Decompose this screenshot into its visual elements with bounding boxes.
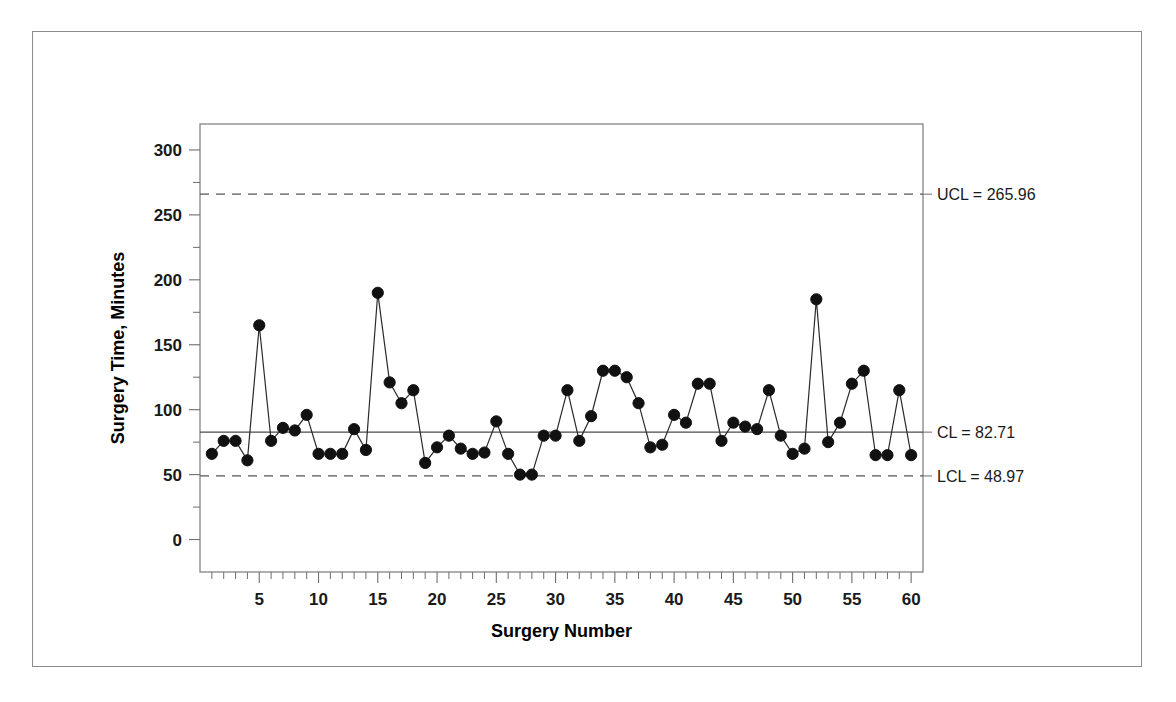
y-tick-label: 300 bbox=[154, 141, 182, 160]
data-point[interactable] bbox=[562, 385, 573, 396]
data-point[interactable] bbox=[775, 430, 786, 441]
data-point[interactable] bbox=[834, 417, 845, 428]
data-point[interactable] bbox=[811, 294, 822, 305]
data-point[interactable] bbox=[431, 442, 442, 453]
x-tick-label: 30 bbox=[546, 590, 565, 609]
x-tick-label: 35 bbox=[605, 590, 624, 609]
data-point[interactable] bbox=[740, 421, 751, 432]
data-point[interactable] bbox=[289, 425, 300, 436]
ucl-label: UCL = 265.96 bbox=[937, 186, 1036, 203]
data-point[interactable] bbox=[396, 398, 407, 409]
y-tick-label: 100 bbox=[154, 401, 182, 420]
data-point[interactable] bbox=[420, 457, 431, 468]
data-point[interactable] bbox=[408, 385, 419, 396]
data-point[interactable] bbox=[503, 448, 514, 459]
y-axis-title: Surgery Time, Minutes bbox=[108, 252, 128, 445]
x-tick-label: 20 bbox=[428, 590, 447, 609]
data-point[interactable] bbox=[799, 443, 810, 454]
data-point[interactable] bbox=[538, 430, 549, 441]
plot-box bbox=[200, 124, 923, 572]
x-tick-label: 60 bbox=[902, 590, 921, 609]
data-point[interactable] bbox=[657, 439, 668, 450]
data-point[interactable] bbox=[266, 435, 277, 446]
data-point[interactable] bbox=[894, 385, 905, 396]
data-point[interactable] bbox=[858, 365, 869, 376]
y-tick-label: 0 bbox=[173, 531, 182, 550]
cl-label: CL = 82.71 bbox=[937, 424, 1015, 441]
data-point[interactable] bbox=[550, 430, 561, 441]
data-point[interactable] bbox=[680, 417, 691, 428]
data-point[interactable] bbox=[348, 424, 359, 435]
data-point[interactable] bbox=[823, 437, 834, 448]
data-point[interactable] bbox=[870, 450, 881, 461]
data-point[interactable] bbox=[360, 444, 371, 455]
data-point[interactable] bbox=[645, 442, 656, 453]
data-point[interactable] bbox=[586, 411, 597, 422]
data-point[interactable] bbox=[597, 365, 608, 376]
data-point[interactable] bbox=[787, 448, 798, 459]
data-point[interactable] bbox=[337, 448, 348, 459]
data-point[interactable] bbox=[633, 398, 644, 409]
data-point[interactable] bbox=[882, 450, 893, 461]
data-point[interactable] bbox=[325, 448, 336, 459]
data-point[interactable] bbox=[230, 435, 241, 446]
x-tick-label: 15 bbox=[368, 590, 387, 609]
data-point[interactable] bbox=[763, 385, 774, 396]
lcl-label: LCL = 48.97 bbox=[937, 468, 1024, 485]
data-point[interactable] bbox=[514, 469, 525, 480]
x-tick-label: 5 bbox=[255, 590, 264, 609]
data-point[interactable] bbox=[728, 417, 739, 428]
data-point[interactable] bbox=[704, 378, 715, 389]
data-point[interactable] bbox=[301, 409, 312, 420]
y-tick-label: 200 bbox=[154, 271, 182, 290]
x-tick-label: 10 bbox=[309, 590, 328, 609]
data-point[interactable] bbox=[668, 409, 679, 420]
x-tick-label: 25 bbox=[487, 590, 506, 609]
data-point[interactable] bbox=[751, 424, 762, 435]
data-point[interactable] bbox=[384, 377, 395, 388]
data-point[interactable] bbox=[313, 448, 324, 459]
data-point[interactable] bbox=[574, 435, 585, 446]
data-point[interactable] bbox=[277, 422, 288, 433]
data-point[interactable] bbox=[479, 447, 490, 458]
data-point[interactable] bbox=[443, 430, 454, 441]
control-chart: 51015202530354045505560Surgery Number050… bbox=[0, 0, 1176, 702]
x-axis-title: Surgery Number bbox=[491, 621, 632, 641]
y-tick-label: 150 bbox=[154, 336, 182, 355]
data-point[interactable] bbox=[372, 287, 383, 298]
x-tick-label: 55 bbox=[842, 590, 861, 609]
data-point[interactable] bbox=[692, 378, 703, 389]
data-point[interactable] bbox=[455, 443, 466, 454]
data-point[interactable] bbox=[621, 372, 632, 383]
y-tick-label: 50 bbox=[163, 466, 182, 485]
data-point[interactable] bbox=[242, 455, 253, 466]
data-point[interactable] bbox=[467, 448, 478, 459]
x-tick-label: 40 bbox=[665, 590, 684, 609]
x-tick-label: 50 bbox=[783, 590, 802, 609]
x-tick-label: 45 bbox=[724, 590, 743, 609]
data-point[interactable] bbox=[491, 416, 502, 427]
y-tick-label: 250 bbox=[154, 206, 182, 225]
data-point[interactable] bbox=[906, 450, 917, 461]
data-point[interactable] bbox=[526, 469, 537, 480]
data-point[interactable] bbox=[218, 435, 229, 446]
data-point[interactable] bbox=[716, 435, 727, 446]
data-point[interactable] bbox=[206, 448, 217, 459]
data-point[interactable] bbox=[254, 320, 265, 331]
data-point[interactable] bbox=[609, 365, 620, 376]
data-point[interactable] bbox=[846, 378, 857, 389]
